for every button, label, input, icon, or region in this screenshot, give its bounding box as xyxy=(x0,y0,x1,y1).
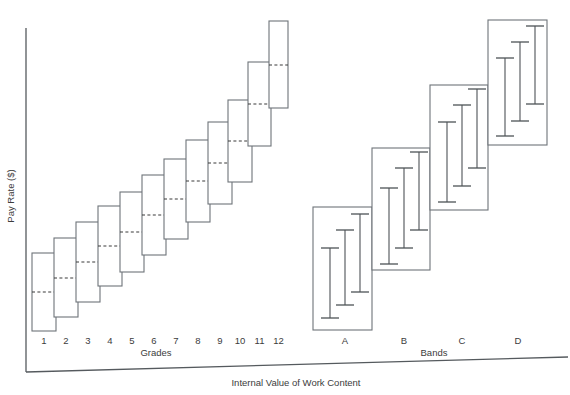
grade-box xyxy=(248,62,271,146)
grade-tick-label: 12 xyxy=(273,335,284,346)
band-range-rect xyxy=(430,85,488,210)
band-box xyxy=(430,85,488,210)
grade-tick-label: 11 xyxy=(255,335,265,346)
pay-structure-chart: 123456789101112 ABCD Grades Bands Intern… xyxy=(0,0,570,395)
grade-tick-label: 1 xyxy=(41,335,46,346)
band-box xyxy=(313,207,372,330)
grade-box xyxy=(76,222,100,302)
grade-box xyxy=(120,192,144,272)
band-range-rect xyxy=(313,207,372,330)
grade-box xyxy=(269,21,288,108)
x-axis-title: Internal Value of Work Content xyxy=(231,377,360,388)
band-tick-label: D xyxy=(515,335,522,346)
x-axis-line xyxy=(26,357,568,372)
band-tick-label: C xyxy=(459,335,466,346)
y-axis-title: Pay Rate ($) xyxy=(5,169,16,222)
grade-tick-labels-group: 123456789101112 xyxy=(41,335,283,346)
grade-tick-label: 6 xyxy=(151,335,156,346)
grade-tick-label: 3 xyxy=(85,335,90,346)
grade-tick-label: 4 xyxy=(107,335,112,346)
grade-tick-label: 8 xyxy=(195,335,200,346)
band-box xyxy=(488,20,547,145)
grade-box xyxy=(186,140,210,222)
band-box xyxy=(372,148,430,270)
grade-tick-label: 10 xyxy=(235,335,246,346)
band-range-rect xyxy=(372,148,430,270)
grade-tick-label: 7 xyxy=(173,335,178,346)
grade-tick-label: 9 xyxy=(217,335,222,346)
band-tick-label: A xyxy=(342,335,349,346)
grade-boxes-group xyxy=(32,21,288,331)
grade-tick-label: 2 xyxy=(63,335,68,346)
grade-box xyxy=(164,159,188,239)
grade-box xyxy=(54,238,78,317)
grade-tick-label: 5 xyxy=(129,335,134,346)
chart-canvas: 123456789101112 ABCD Grades Bands Intern… xyxy=(0,0,570,395)
band-boxes-group xyxy=(313,20,547,330)
bands-axis-title: Bands xyxy=(421,347,448,358)
grades-axis-title: Grades xyxy=(140,347,171,358)
grade-box xyxy=(32,253,56,331)
grade-box xyxy=(98,206,122,286)
band-tick-labels-group: ABCD xyxy=(342,335,522,346)
band-range-rect xyxy=(488,20,547,145)
grade-box xyxy=(142,175,166,255)
band-tick-label: B xyxy=(401,335,407,346)
